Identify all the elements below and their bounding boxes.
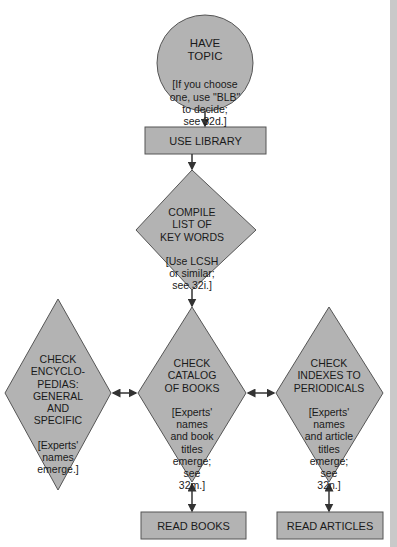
read-books-label: READ BOOKS: [141, 512, 246, 539]
compile-key-words-label: COMPILE LIST OF KEY WORDS [Use LCSH or s…: [146, 194, 238, 304]
check-indexes-title: CHECK INDEXES TO PERIODICALS: [279, 357, 379, 394]
check-catalog-label: CHECK CATALOG OF BOOKS [Experts' names a…: [147, 345, 237, 504]
compile-key-words-note: [Use LCSH or similar; see 32i.]: [146, 255, 238, 292]
check-indexes-label: CHECK INDEXES TO PERIODICALS [Experts' n…: [279, 345, 379, 504]
check-catalog-title: CHECK CATALOG OF BOOKS: [147, 357, 237, 394]
check-encyclopedias-note: [Experts' names emerge.]: [13, 439, 103, 476]
check-encyclopedias-label: CHECK ENCYCLO- PEDIAS: GENERAL AND SPECI…: [13, 341, 103, 487]
check-encyclopedias-title: CHECK ENCYCLO- PEDIAS: GENERAL AND SPECI…: [13, 353, 103, 426]
compile-key-words-title: COMPILE LIST OF KEY WORDS: [146, 206, 238, 243]
have-topic-label: HAVE TOPIC [If you choose one, use "BLB"…: [157, 25, 253, 139]
have-topic-title: HAVE TOPIC: [157, 37, 253, 63]
check-indexes-note: [Experts' names and article titles emerg…: [279, 406, 379, 491]
have-topic-note: [If you choose one, use "BLB" to decide;…: [157, 78, 253, 127]
check-catalog-note: [Experts' names and book titles emerge; …: [147, 406, 237, 491]
use-library-label: USE LIBRARY: [145, 127, 266, 154]
read-articles-label: READ ARTICLES: [277, 512, 383, 539]
